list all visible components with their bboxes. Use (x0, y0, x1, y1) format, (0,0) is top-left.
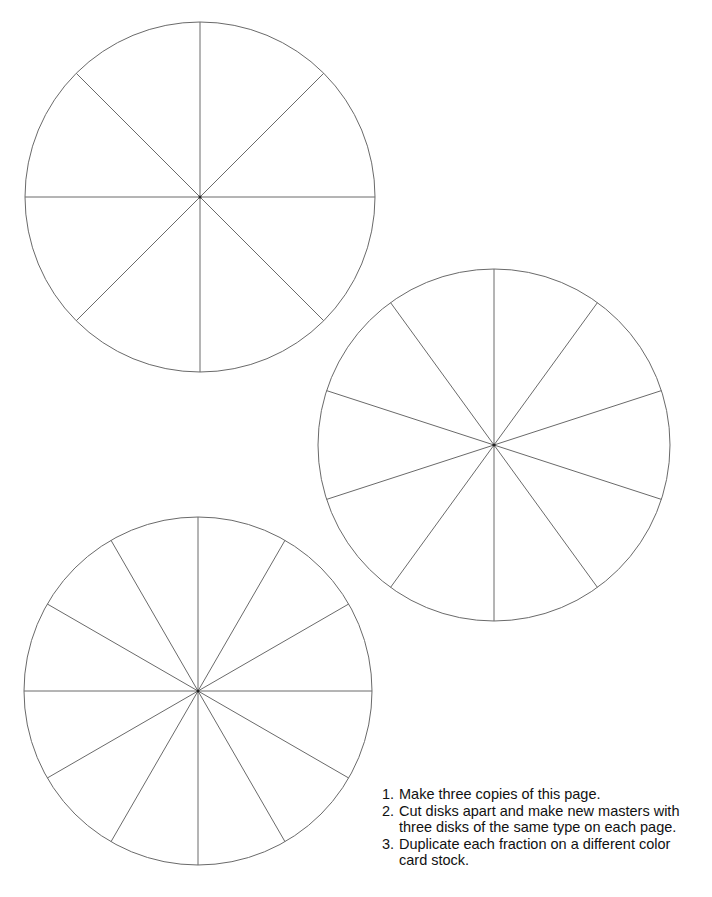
instruction-item: 3. Duplicate each fraction on a differen… (382, 836, 702, 869)
instruction-item: 1. Make three copies of this page. (382, 786, 702, 803)
instruction-text: Cut disks apart and make new masters wit… (399, 803, 679, 836)
instruction-item: 2. Cut disks apart and make new masters … (382, 803, 702, 836)
section-divider (200, 73, 324, 197)
section-divider (391, 445, 494, 587)
eighths-disk (25, 22, 375, 372)
center-point (199, 196, 202, 199)
tenths-disk (318, 269, 670, 621)
section-divider (494, 303, 597, 445)
section-divider (111, 691, 198, 842)
section-divider (47, 604, 198, 691)
section-divider (198, 604, 349, 691)
section-divider (198, 540, 285, 691)
center-point (493, 444, 496, 447)
instruction-text: Duplicate each fraction on a different c… (399, 836, 670, 869)
instructions-list: 1. Make three copies of this page. 2. Cu… (382, 786, 702, 869)
section-divider (327, 445, 494, 499)
instruction-number: 2. (382, 803, 394, 820)
instruction-number: 1. (382, 786, 394, 803)
section-divider (494, 391, 661, 445)
section-divider (76, 197, 200, 321)
instruction-number: 3. (382, 836, 394, 853)
section-divider (198, 691, 285, 842)
center-point (197, 690, 200, 693)
section-divider (327, 391, 494, 445)
section-divider (391, 303, 494, 445)
section-divider (198, 691, 349, 778)
twelfths-disk (24, 517, 372, 865)
section-divider (76, 73, 200, 197)
section-divider (47, 691, 198, 778)
instruction-text: Make three copies of this page. (399, 786, 601, 802)
section-divider (494, 445, 661, 499)
fraction-disks-canvas (0, 0, 712, 897)
section-divider (494, 445, 597, 587)
section-divider (200, 197, 324, 321)
section-divider (111, 540, 198, 691)
